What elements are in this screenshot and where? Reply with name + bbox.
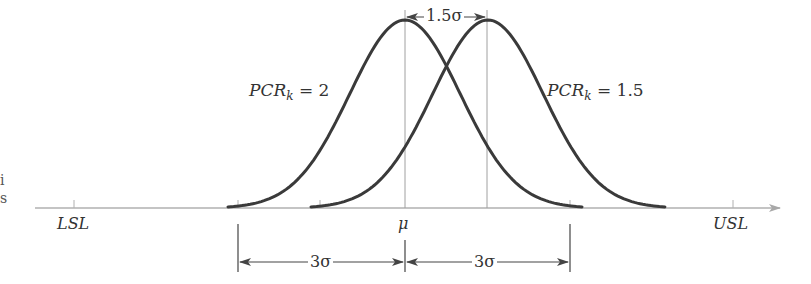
spread-label-right: 3σ: [472, 252, 497, 271]
mu-label: μ: [398, 214, 408, 233]
diagram-canvas: [0, 0, 811, 284]
curve-label-main: PCR: [547, 80, 584, 100]
curve-label-value: = 2: [294, 80, 330, 100]
usl-label: USL: [713, 214, 748, 233]
curve-label-value: = 1.5: [592, 80, 644, 100]
shift-dimension-label: 1.5σ: [424, 6, 464, 25]
curve-label-main: PCR: [249, 80, 286, 100]
curve-label-pcrk-2: PCRk = 2: [249, 80, 329, 103]
lsl-label: LSL: [57, 214, 89, 233]
curve-label-pcrk-1.5: PCRk = 1.5: [547, 80, 644, 103]
spread-label-left: 3σ: [308, 252, 333, 271]
edge-fragment-1: i: [0, 172, 4, 188]
process-capability-diagram: 1.5σ PCRk = 2 PCRk = 1.5 LSL μ USL 3σ 3σ…: [0, 0, 811, 284]
curve-label-sub: k: [286, 89, 293, 103]
edge-fragment-2: s: [0, 190, 7, 206]
normal-curve-pcrk-1.5: [311, 20, 665, 207]
curve-label-sub: k: [584, 89, 591, 103]
